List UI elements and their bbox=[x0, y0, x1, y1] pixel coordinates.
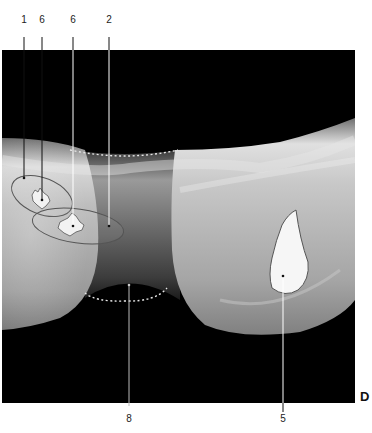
label-6-second: 6 bbox=[70, 15, 76, 25]
label-6-first: 6 bbox=[39, 15, 45, 25]
label-2: 2 bbox=[106, 15, 112, 25]
radiograph-figure: 1 6 6 2 8 5 D bbox=[0, 0, 372, 433]
label-8: 8 bbox=[126, 414, 132, 424]
panel-letter: D bbox=[360, 389, 369, 404]
label-5: 5 bbox=[280, 414, 286, 424]
label-1: 1 bbox=[21, 15, 27, 25]
radiograph-image bbox=[0, 0, 372, 433]
